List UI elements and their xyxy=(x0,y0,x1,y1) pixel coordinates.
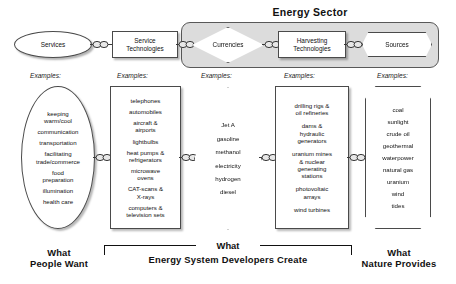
example-item: wind xyxy=(392,190,405,197)
caption-people-want-line2: People Want xyxy=(20,258,98,269)
example-item: tides xyxy=(392,202,405,209)
example-item: foodpreparation xyxy=(43,169,74,183)
example-item: natural gas xyxy=(383,166,413,173)
example-item: illumination xyxy=(43,187,73,194)
example-item: computers &television sets xyxy=(126,204,164,218)
example-item: crude oil xyxy=(386,130,409,137)
caption-people-want: What People Want xyxy=(20,247,98,270)
node-services[interactable]: Services xyxy=(14,31,92,58)
examples-services-container[interactable]: keepingwarm/coolcommunicationtransportat… xyxy=(21,86,95,229)
examples-label-harvesting-technologies: Examples: xyxy=(284,72,315,79)
examples-label-services: Examples: xyxy=(30,72,61,79)
example-item: uranium mines& nucleargeneratingstations xyxy=(292,150,332,179)
energy-sector-title: Energy Sector xyxy=(181,6,439,18)
examples-sources-list: coalsunlightcrude oilgeothermalwaterpowe… xyxy=(366,87,430,228)
caption-energy-system-line2: Energy System Developers Create xyxy=(104,254,352,265)
examples-label-sources: Examples: xyxy=(377,72,408,79)
example-item: geothermal xyxy=(383,142,414,149)
example-item: photovoltaicarrays xyxy=(296,185,329,199)
example-item: heat pumps &refrigerators xyxy=(127,149,165,163)
example-item: facilitatingtrade/commerce xyxy=(36,150,80,164)
caption-nature-provides-line1: What xyxy=(358,247,440,258)
examples-currencies-list: Jet Agasolinemethanolelectricityhydrogen… xyxy=(195,88,261,229)
node-services-label: Services xyxy=(15,32,91,57)
examples-services-list: keepingwarm/coolcommunicationtransportat… xyxy=(22,87,94,228)
chain-link-icon xyxy=(90,39,112,50)
example-item: methanol xyxy=(215,148,240,155)
examples-harvesting-technologies-container[interactable]: drilling rigs &oil refineriesdams &hydra… xyxy=(275,86,349,229)
examples-service-technologies-container[interactable]: telephonesautomobilesaircraft &airportsl… xyxy=(110,86,181,229)
example-item: drilling rigs &oil refineries xyxy=(295,102,330,116)
example-item: uranium xyxy=(387,178,409,185)
example-item: aircraft &airports xyxy=(133,119,157,133)
example-item: electricity xyxy=(215,162,240,169)
example-item: lightbulbs xyxy=(133,138,159,145)
diagram-canvas: Energy Sector Services ServiceTechnologi… xyxy=(0,0,456,284)
node-service-technologies[interactable]: ServiceTechnologies xyxy=(112,31,178,58)
node-sources-label: Sources xyxy=(363,33,431,56)
example-item: automobiles xyxy=(129,108,162,115)
examples-service-technologies-list: telephonesautomobilesaircraft &airportsl… xyxy=(111,87,180,228)
caption-nature-provides: What Nature Provides xyxy=(358,247,440,270)
caption-nature-provides-line2: Nature Provides xyxy=(358,258,440,269)
examples-currencies-container[interactable]: Jet Agasolinemethanolelectricityhydrogen… xyxy=(194,87,262,230)
example-item: Jet A xyxy=(221,121,235,128)
examples-harvesting-technologies-list: drilling rigs &oil refineriesdams &hydra… xyxy=(276,87,348,228)
examples-label-currencies: Examples: xyxy=(201,72,232,79)
caption-energy-system-line1: What xyxy=(196,240,260,251)
caption-people-want-line1: What xyxy=(20,247,98,258)
node-service-technologies-label: ServiceTechnologies xyxy=(113,32,177,57)
example-item: microwaveovens xyxy=(131,167,160,181)
node-harvesting-technologies[interactable]: HarvestingTechnologies xyxy=(278,31,346,58)
example-item: communication xyxy=(38,128,79,135)
example-item: health care xyxy=(43,198,73,205)
examples-sources-container[interactable]: coalsunlightcrude oilgeothermalwaterpowe… xyxy=(365,86,431,229)
example-item: sunlight xyxy=(387,118,408,125)
example-item: gasoline xyxy=(217,135,240,142)
example-item: coal xyxy=(392,106,403,113)
example-item: keepingwarm/cool xyxy=(44,110,72,124)
example-item: telephones xyxy=(131,97,161,104)
caption-energy-system-developers: What Energy System Developers Create xyxy=(104,241,352,281)
example-item: waterpower xyxy=(382,154,414,161)
example-item: diesel xyxy=(220,188,236,195)
example-item: transportation xyxy=(39,139,76,146)
example-item: hydrogen xyxy=(215,175,240,182)
example-item: dams &hydraulicgenerators xyxy=(297,122,326,144)
example-item: wind turbines xyxy=(294,206,330,213)
node-harvesting-technologies-label: HarvestingTechnologies xyxy=(279,32,345,57)
examples-label-service-technologies: Examples: xyxy=(117,72,148,79)
node-sources[interactable]: Sources xyxy=(362,32,432,57)
example-item: CAT-scans &X-rays xyxy=(128,185,163,199)
